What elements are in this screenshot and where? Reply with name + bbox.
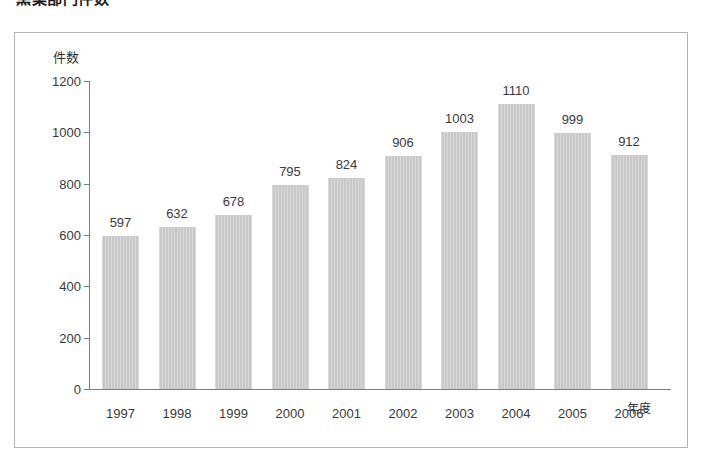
bar — [554, 133, 591, 389]
x-axis-tick-label: 2003 — [431, 407, 488, 420]
y-axis-tick-label: 1000 — [27, 126, 81, 139]
y-axis-tick-label: 200 — [27, 332, 81, 345]
x-axis-tick-label: 2002 — [375, 407, 432, 420]
x-axis-tick-label: 2001 — [318, 407, 375, 420]
y-axis-tick-mark — [84, 389, 89, 390]
y-axis-title: 件数 — [53, 47, 79, 66]
bar — [159, 227, 196, 389]
bar — [102, 236, 139, 389]
y-axis-line — [89, 81, 90, 390]
x-axis-tick-label: 1997 — [92, 407, 149, 420]
y-axis-tick-label: 1200 — [27, 75, 81, 88]
y-axis-tick-label: 400 — [27, 280, 81, 293]
bar-value-label: 912 — [601, 135, 658, 148]
y-axis-tick-mark — [84, 235, 89, 236]
x-axis-tick-label: 2006 — [601, 407, 658, 420]
x-axis-tick-label: 2004 — [488, 407, 545, 420]
x-axis-tick-label: 2000 — [262, 407, 319, 420]
y-axis-tick-mark — [84, 184, 89, 185]
bar-value-label: 999 — [544, 113, 601, 126]
y-axis-tick-mark — [84, 132, 89, 133]
bar-value-label: 632 — [149, 207, 206, 220]
bar — [498, 104, 535, 389]
y-axis-tick-mark — [84, 286, 89, 287]
bar-value-label: 597 — [92, 216, 149, 229]
bar-value-label: 795 — [262, 165, 319, 178]
x-axis-line — [89, 389, 671, 390]
bar — [328, 178, 365, 389]
bar-value-label: 678 — [205, 195, 262, 208]
x-axis-tick-label: 2005 — [544, 407, 601, 420]
x-axis-tick-label: 1998 — [149, 407, 206, 420]
bar — [611, 155, 648, 389]
x-axis-tick-label: 1999 — [205, 407, 262, 420]
bar — [385, 156, 422, 389]
y-axis-tick-label: 600 — [27, 229, 81, 242]
bar-value-label: 1110 — [488, 84, 545, 97]
y-axis-tick-mark — [84, 81, 89, 82]
chart-frame: 件数 年度 020040060080010001200 597632678795… — [14, 32, 688, 448]
bar-value-label: 1003 — [431, 112, 488, 125]
bar — [441, 132, 478, 389]
bar-value-label: 824 — [318, 158, 375, 171]
figure-title: 窯業部門件数 — [16, 0, 109, 8]
plot-area: 020040060080010001200 597632678795824906… — [89, 81, 671, 389]
y-axis-tick-label: 800 — [27, 178, 81, 191]
bar — [215, 215, 252, 389]
y-axis-tick-mark — [84, 338, 89, 339]
y-axis-tick-label: 0 — [27, 383, 81, 396]
bar — [272, 185, 309, 389]
bar-value-label: 906 — [375, 136, 432, 149]
